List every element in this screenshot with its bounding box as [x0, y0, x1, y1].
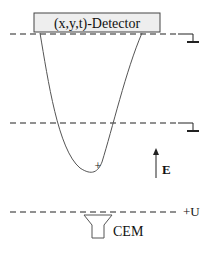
voltage-label: +U — [183, 204, 200, 219]
detector-box: (x,y,t)-Detector — [34, 13, 160, 32]
detector-diagram: (x,y,t)-Detector + E +U CEM — [0, 0, 213, 254]
cem-funnel-icon — [84, 215, 112, 238]
cem-label: CEM — [113, 224, 144, 239]
field-label: E — [162, 162, 171, 177]
ground-symbol-middle — [178, 123, 199, 131]
start-marker: + — [95, 159, 102, 173]
field-arrow-icon — [153, 148, 159, 178]
ground-symbol-top — [178, 34, 199, 42]
detector-label: (x,y,t)-Detector — [54, 16, 140, 32]
electron-trajectory — [40, 33, 142, 172]
